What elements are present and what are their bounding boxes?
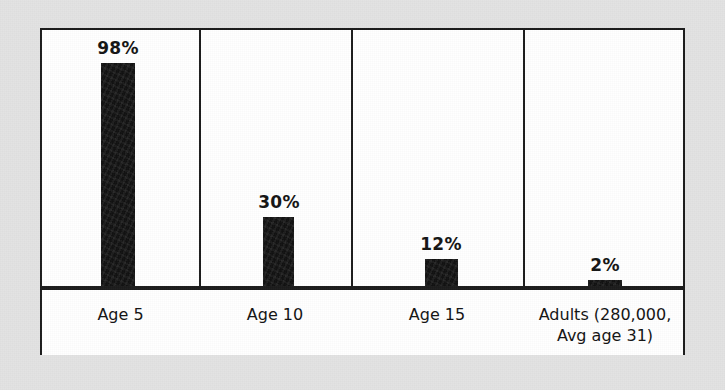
bar-wrap-adults: 2%	[525, 30, 687, 286]
panel-adults: 2%	[523, 30, 687, 286]
bar-wrap-age-10: 30%	[201, 30, 351, 286]
plot-area: 98% 30% 12% 2%	[40, 28, 685, 288]
bar-age-10	[263, 217, 294, 286]
bar-chart-figure: 98% 30% 12% 2% Age 5 Age 10	[40, 28, 685, 355]
category-label-age-5: Age 5	[42, 304, 199, 325]
category-label-age-10: Age 10	[199, 304, 351, 325]
bar-age-5	[101, 63, 135, 286]
bar-value-adults: 2%	[565, 255, 645, 275]
category-label-adults: Adults (280,000, Avg age 31)	[523, 304, 687, 346]
bar-value-age-15: 12%	[401, 234, 481, 254]
panel-age-5: 98%	[42, 30, 199, 286]
bar-age-15	[425, 259, 458, 286]
bar-adults	[588, 280, 622, 286]
category-label-band: Age 5 Age 10 Age 15 Adults (280,000, Avg…	[40, 288, 685, 355]
bar-value-age-5: 98%	[78, 38, 158, 58]
category-label-age-15: Age 15	[351, 304, 523, 325]
bar-value-age-10: 30%	[239, 192, 319, 212]
panel-age-15: 12%	[351, 30, 523, 286]
bar-wrap-age-5: 98%	[42, 30, 199, 286]
bar-wrap-age-15: 12%	[353, 30, 523, 286]
panel-age-10: 30%	[199, 30, 351, 286]
